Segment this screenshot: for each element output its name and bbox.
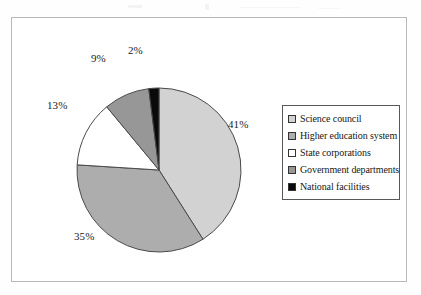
pie-chart [76, 87, 242, 253]
legend-swatch-icon [288, 115, 296, 123]
scan-artifact [205, 4, 209, 10]
legend-swatch-icon [288, 132, 296, 140]
legend-label: Government departments [300, 164, 399, 175]
figure-container: 41% 35% 13% 9% 2% Science council Higher… [0, 0, 421, 295]
chart-legend: Science council Higher education system … [282, 105, 400, 200]
data-label-science-council: 41% [228, 118, 248, 130]
legend-label: State corporations [300, 147, 371, 158]
legend-item-government-departments: Government departments [288, 161, 395, 178]
legend-label: Higher education system [300, 130, 397, 141]
legend-item-science-council: Science council [288, 110, 395, 127]
legend-label: Science council [300, 113, 362, 124]
legend-item-state-corporations: State corporations [288, 144, 395, 161]
legend-swatch-icon [288, 149, 296, 157]
scan-artifact [318, 8, 340, 9]
scan-artifact [128, 5, 142, 8]
legend-item-national-facilities: National facilities [288, 178, 395, 195]
data-label-state-corporations: 13% [47, 99, 67, 111]
scan-artifact [240, 7, 300, 8]
pie-slice-group [77, 88, 241, 252]
legend-swatch-icon [288, 183, 296, 191]
data-label-higher-education-system: 35% [74, 230, 94, 242]
legend-item-higher-education-system: Higher education system [288, 127, 395, 144]
legend-label: National facilities [300, 181, 369, 192]
data-label-national-facilities: 2% [128, 44, 143, 56]
pie-svg [76, 87, 242, 253]
legend-swatch-icon [288, 166, 296, 174]
data-label-government-departments: 9% [91, 52, 106, 64]
